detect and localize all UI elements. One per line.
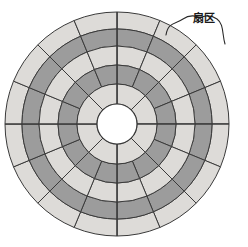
disk-platter-svg: 扇区 [0,0,248,247]
disk-diagram-figure: 扇区 [0,0,248,247]
sector-annotation-label: 扇区 [193,11,215,25]
spindle-hub [97,104,137,144]
